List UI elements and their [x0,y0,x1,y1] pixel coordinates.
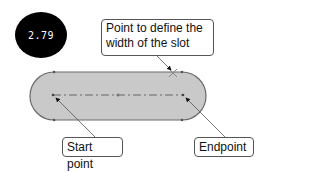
width-point-callout-line2: width of the slot [106,36,209,51]
start-point-marker [52,94,55,97]
width-point-callout-line1: Point to define the [106,21,209,36]
start-point-callout: Start point [62,137,123,157]
mid-point-marker [116,93,119,96]
width-point-leader [157,56,171,70]
end-point-marker [182,94,185,97]
width-point-callout: Point to define the width of the slot [101,19,214,56]
endpoint-callout: Endpoint [194,137,254,157]
